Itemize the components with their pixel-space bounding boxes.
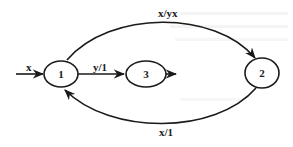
edge-1-to-2-label: x/yx [158, 7, 178, 19]
background-ghost-text [170, 12, 288, 101]
edge-1-to-3-label: y/1 [93, 61, 107, 73]
node-3: 3 [126, 61, 166, 87]
node-1-label: 1 [58, 68, 64, 80]
edge-2-to-1 [65, 88, 256, 124]
node-1: 1 [44, 61, 78, 87]
node-2-label: 2 [259, 67, 265, 79]
input-edge-label: x [26, 61, 32, 73]
edge-2-to-1-label: x/1 [159, 126, 173, 138]
node-2: 2 [245, 58, 279, 88]
state-diagram: x y/1 x/yx x/1 1 3 2 [0, 0, 293, 147]
node-3-label: 3 [143, 68, 149, 80]
